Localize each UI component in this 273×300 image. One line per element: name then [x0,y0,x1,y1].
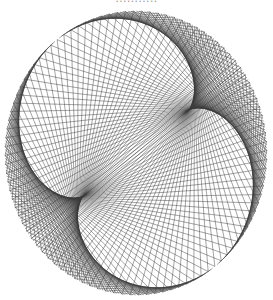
chord-lines [5,11,267,295]
chord-path [5,11,267,295]
chord-line-art [0,0,273,300]
